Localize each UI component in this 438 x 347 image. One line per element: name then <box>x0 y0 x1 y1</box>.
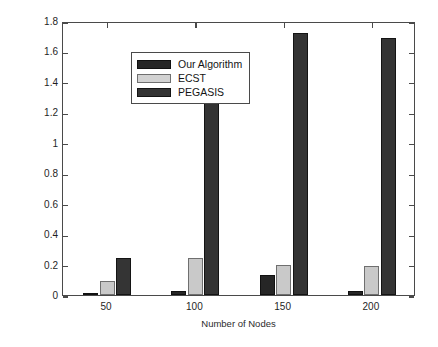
bar-pegasis-150 <box>293 33 308 295</box>
figure-canvas: 00.20.40.60.811.21.41.61.8 Our Algorithm… <box>0 0 438 347</box>
y-tick-label: 0.6 <box>44 199 58 210</box>
x-tick-label: 150 <box>274 301 291 312</box>
y-tick-mark-right <box>409 236 414 237</box>
y-tick-mark <box>63 296 68 297</box>
y-tick-mark <box>63 205 68 206</box>
y-tick-label: 1 <box>52 138 58 149</box>
bar-pegasis-200 <box>381 38 396 295</box>
x-tick-label: 200 <box>363 301 380 312</box>
plot-area: 00.20.40.60.811.21.41.61.8 Our Algorithm… <box>62 22 415 296</box>
legend-label: ECST <box>178 73 206 84</box>
legend-swatch-icon <box>137 60 171 69</box>
x-tick-mark-top <box>107 23 108 28</box>
legend-swatch-icon <box>137 74 171 83</box>
y-tick-mark <box>63 266 68 267</box>
y-tick-mark-right <box>409 83 414 84</box>
y-tick-label: 0.2 <box>44 260 58 271</box>
y-tick-label: 1.4 <box>44 77 58 88</box>
x-tick-label: 100 <box>186 301 203 312</box>
y-tick-label: 0.4 <box>44 229 58 240</box>
bar-our-algorithm-50 <box>83 293 98 295</box>
legend-item-ecst: ECST <box>137 71 242 85</box>
y-tick-mark <box>63 236 68 237</box>
bar-our-algorithm-200 <box>348 291 363 295</box>
y-tick-mark-right <box>409 266 414 267</box>
y-tick-label: 0.8 <box>44 168 58 179</box>
y-tick-mark-right <box>409 175 414 176</box>
y-tick-label: 1.2 <box>44 107 58 118</box>
x-tick-mark-top <box>284 23 285 28</box>
chart-legend: Our AlgorithmECSTPEGASIS <box>131 52 250 104</box>
bar-pegasis-100 <box>204 77 219 295</box>
y-tick-mark <box>63 53 68 54</box>
y-tick-mark-right <box>409 144 414 145</box>
bar-ecst-100 <box>188 258 203 295</box>
y-tick-mark <box>63 114 68 115</box>
y-tick-mark <box>63 83 68 84</box>
legend-item-our-algorithm: Our Algorithm <box>137 57 242 71</box>
y-tick-label: 1.6 <box>44 46 58 57</box>
y-tick-mark-right <box>409 114 414 115</box>
y-tick-mark <box>63 22 68 23</box>
x-tick-label: 50 <box>101 301 112 312</box>
y-tick-mark-right <box>409 296 414 297</box>
x-tick-mark-top <box>195 23 196 28</box>
y-tick-mark <box>63 175 68 176</box>
bar-our-algorithm-100 <box>171 291 186 295</box>
legend-label: PEGASIS <box>178 87 224 98</box>
x-tick-mark-top <box>372 23 373 28</box>
y-tick-mark-right <box>409 53 414 54</box>
y-tick-label: 0 <box>52 290 58 301</box>
legend-swatch-icon <box>137 88 171 97</box>
y-tick-mark <box>63 144 68 145</box>
y-tick-mark-right <box>409 22 414 23</box>
bar-pegasis-50 <box>116 258 131 295</box>
legend-label: Our Algorithm <box>178 59 242 70</box>
bar-our-algorithm-150 <box>260 275 275 295</box>
x-axis-title: Number of Nodes <box>62 318 415 329</box>
y-tick-label: 1.8 <box>44 16 58 27</box>
bar-ecst-50 <box>100 281 115 295</box>
y-tick-mark-right <box>409 205 414 206</box>
bar-ecst-200 <box>364 266 379 295</box>
legend-item-pegasis: PEGASIS <box>137 85 242 99</box>
bar-ecst-150 <box>276 265 291 295</box>
